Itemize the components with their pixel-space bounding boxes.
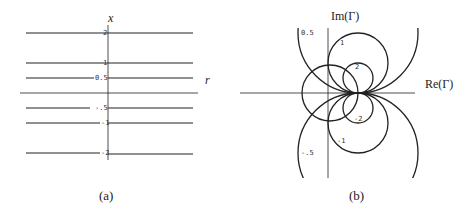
label-1: 1 — [103, 59, 107, 67]
panel-b — [240, 0, 418, 212]
x-axis-label: x — [107, 11, 114, 25]
r-axis-label: r — [205, 73, 210, 87]
label-b-neg1: -1 — [337, 137, 345, 145]
im-axis-label: Im(Γ) — [331, 9, 359, 23]
label-b-neg2: -2 — [354, 115, 362, 123]
label-0.5: 0.5 — [95, 74, 108, 82]
label-b-neg0.5: -.5 — [301, 149, 314, 157]
figure: x r 2 1 0.5 -.5 -1 -2 (a) Im(Γ) Re(Γ) 0.… — [0, 0, 470, 212]
panel-a — [20, 25, 198, 160]
label-neg1: -1 — [101, 119, 109, 127]
label-b-0.5: 0.5 — [301, 29, 314, 37]
label-neg0.5: -.5 — [95, 104, 108, 112]
label-b-2: 2 — [355, 63, 359, 71]
label-b-1: 1 — [340, 39, 344, 47]
caption-a: (a) — [99, 188, 113, 203]
caption-b: (b) — [349, 188, 364, 203]
label-neg2: -2 — [101, 149, 109, 157]
re-axis-label: Re(Γ) — [425, 77, 453, 91]
label-2: 2 — [103, 29, 107, 37]
